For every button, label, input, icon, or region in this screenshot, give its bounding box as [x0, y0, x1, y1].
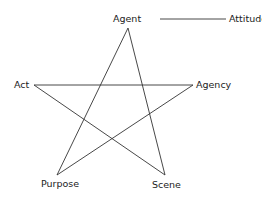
node-purpose: Purpose [41, 179, 79, 189]
node-attitude: Attitude [229, 14, 262, 24]
pentad-diagram: Agent Attitude Act Agency Purpose Scene [0, 0, 262, 199]
node-agency: Agency [196, 80, 231, 90]
node-agent: Agent [113, 14, 141, 24]
node-scene: Scene [152, 180, 181, 190]
pentad-star-lines [0, 0, 262, 199]
edge-agent-purpose [57, 28, 128, 175]
edge-agency-purpose [57, 85, 193, 175]
node-act: Act [14, 80, 29, 90]
